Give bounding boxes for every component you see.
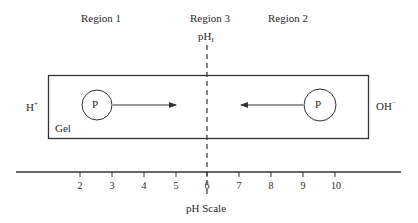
tick-label: 10 [328,180,344,191]
tick-label: 2 [72,180,88,191]
tick-label: 6 [199,180,215,191]
axis-ticks [80,172,335,177]
h-charge: + [34,100,38,108]
gel-label: Gel [55,122,71,134]
axis-title: pH Scale [186,202,226,214]
tick-label: 5 [168,180,184,191]
oh-ion: OH [376,100,392,112]
tick-label: 9 [295,180,311,191]
tick-label: 4 [136,180,152,191]
h-ion: H [26,101,34,113]
tick-label: 8 [263,180,279,191]
cathode-label: OH− [376,99,396,112]
anode-label: H+ [26,100,38,113]
protein-right-label: P [315,98,321,110]
protein-left-label: P [92,98,98,110]
tick-label: 3 [104,180,120,191]
oh-charge: − [392,99,396,107]
tick-label: 7 [231,180,247,191]
